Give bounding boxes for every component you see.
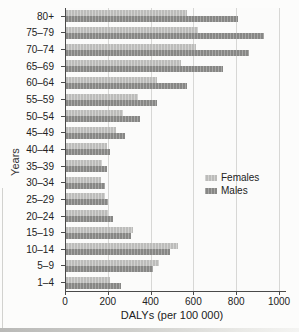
legend: FemalesMales	[205, 172, 259, 196]
bar-males-25–29	[65, 199, 108, 205]
category-label: 50–54	[0, 108, 54, 125]
x-tick-mark-800	[236, 292, 237, 295]
legend-label: Females	[221, 172, 259, 183]
category-label: 25–29	[0, 191, 54, 208]
bar-males-35–39	[65, 166, 107, 172]
x-axis-title: DALYs (per 100 000)	[65, 309, 279, 321]
category-label: 30–34	[0, 174, 54, 191]
bar-rows-container	[65, 8, 279, 291]
category-label: 1–4	[0, 274, 54, 291]
bar-males-20–24	[65, 216, 113, 222]
x-tick-mark-0	[65, 292, 66, 295]
bar-males-15–19	[65, 233, 131, 239]
x-tick-label-400: 400	[142, 296, 159, 307]
legend-swatch-males	[205, 188, 217, 194]
x-tick-label-800: 800	[228, 296, 245, 307]
plot-area	[65, 8, 279, 291]
bar-group-20–24	[65, 208, 279, 225]
bar-group-65–69	[65, 58, 279, 75]
bar-males-60–64	[65, 83, 187, 89]
x-tick-label-200: 200	[99, 296, 116, 307]
category-label: 5–9	[0, 258, 54, 275]
category-label: 15–19	[0, 224, 54, 241]
x-tick-label-600: 600	[185, 296, 202, 307]
bar-males-65–69	[65, 66, 223, 72]
bar-males-40–44	[65, 149, 110, 155]
bar-males-80+	[65, 16, 238, 22]
legend-swatch-females	[205, 175, 217, 181]
category-label: 20–24	[0, 208, 54, 225]
category-label: 10–14	[0, 241, 54, 258]
x-tick-mark-200	[108, 292, 109, 295]
x-tick-mark-600	[193, 292, 194, 295]
category-label: 70–74	[0, 41, 54, 58]
bar-chart-figure: Years 80+75–7970–7465–6960–6455–5950–544…	[0, 0, 299, 332]
y-axis-line	[65, 8, 66, 292]
x-tick-label-1000: 1000	[268, 296, 290, 307]
bar-group-1–4	[65, 274, 279, 291]
bar-males-5–9	[65, 266, 153, 272]
bar-group-10–14	[65, 241, 279, 258]
category-label: 60–64	[0, 75, 54, 92]
bar-group-75–79	[65, 25, 279, 42]
category-label: 40–44	[0, 141, 54, 158]
scan-artifact-left-edge	[2, 188, 3, 328]
bar-males-30–34	[65, 183, 105, 189]
bar-group-80+	[65, 8, 279, 25]
x-tick-mark-1000	[279, 292, 280, 295]
bar-group-55–59	[65, 91, 279, 108]
category-label: 55–59	[0, 91, 54, 108]
bar-group-45–49	[65, 124, 279, 141]
category-label: 45–49	[0, 124, 54, 141]
y-axis-category-labels: 80+75–7970–7465–6960–6455–5950–5445–4940…	[0, 8, 54, 291]
bar-males-55–59	[65, 100, 157, 106]
bar-group-60–64	[65, 75, 279, 92]
bar-group-40–44	[65, 141, 279, 158]
category-label: 65–69	[0, 58, 54, 75]
legend-item-males: Males	[205, 185, 259, 196]
bar-group-15–19	[65, 224, 279, 241]
x-tick-mark-400	[151, 292, 152, 295]
bar-group-70–74	[65, 41, 279, 58]
x-axis-line	[65, 291, 286, 292]
legend-item-females: Females	[205, 172, 259, 183]
category-label: 75–79	[0, 25, 54, 42]
bar-group-5–9	[65, 258, 279, 275]
bar-males-1–4	[65, 283, 121, 289]
gridline-1000	[279, 8, 280, 291]
bar-males-10–14	[65, 249, 170, 255]
bar-males-45–49	[65, 133, 125, 139]
bar-group-50–54	[65, 108, 279, 125]
x-tick-label-0: 0	[62, 296, 68, 307]
bar-males-50–54	[65, 116, 140, 122]
scan-artifact-bottom-strip	[0, 328, 299, 332]
legend-label: Males	[221, 185, 248, 196]
bar-males-75–79	[65, 33, 264, 39]
category-label: 80+	[0, 8, 54, 25]
bar-males-70–74	[65, 50, 249, 56]
category-label: 35–39	[0, 158, 54, 175]
